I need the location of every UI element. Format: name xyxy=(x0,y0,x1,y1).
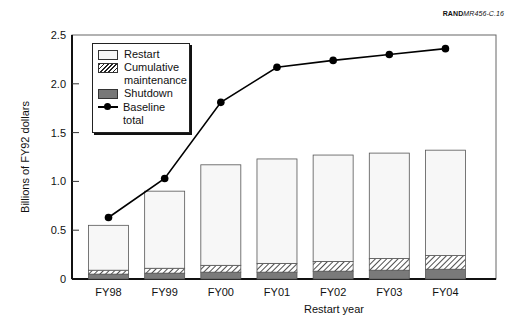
bar-segment xyxy=(89,270,129,274)
data-point xyxy=(105,214,113,222)
legend-item-shutdown: Shutdown xyxy=(98,87,173,100)
bar-segment xyxy=(313,155,353,261)
bar-fy03 xyxy=(369,153,409,279)
line-marker-icon xyxy=(98,101,118,113)
bar-segment xyxy=(145,191,185,268)
bar-fy98 xyxy=(89,225,129,279)
x-tick-label: FY01 xyxy=(264,286,290,298)
y-tick-label: 2.5 xyxy=(51,29,66,41)
bar-segment xyxy=(257,263,297,272)
bar-segment xyxy=(257,272,297,279)
data-point xyxy=(329,57,337,65)
x-tick-label: FY98 xyxy=(95,286,121,298)
chart: 00.51.01.52.02.5Billions of FY92 dollars… xyxy=(0,0,517,332)
bar-segment xyxy=(145,268,185,273)
legend: Restart Cumulativemaintenance Shutdown B… xyxy=(92,43,190,133)
bar-segment xyxy=(201,165,241,266)
bar-segment xyxy=(369,259,409,271)
x-tick-label: FY99 xyxy=(152,286,178,298)
bar-fy01 xyxy=(257,159,297,279)
y-tick-label: 1.0 xyxy=(51,175,66,187)
x-axis-label: Restart year xyxy=(304,303,364,315)
restart-swatch-icon xyxy=(98,50,118,60)
y-tick-label: 0 xyxy=(60,273,66,285)
legend-label: Shutdown xyxy=(124,87,173,100)
legend-item-restart: Restart xyxy=(98,48,159,61)
y-tick-label: 2.0 xyxy=(51,78,66,90)
data-point xyxy=(273,63,281,71)
y-tick-label: 0.5 xyxy=(51,224,66,236)
legend-label: Cumulativemaintenance xyxy=(124,61,187,87)
legend-label: Restart xyxy=(124,48,159,61)
y-axis-label: Billions of FY92 dollars xyxy=(19,101,31,213)
shutdown-swatch-icon xyxy=(98,89,118,99)
bar-segment xyxy=(425,269,465,279)
x-tick-label: FY00 xyxy=(208,286,234,298)
bar-segment xyxy=(313,271,353,279)
bar-segment xyxy=(369,270,409,279)
bar-fy99 xyxy=(145,191,185,279)
bar-fy04 xyxy=(425,150,465,279)
bar-segment xyxy=(425,256,465,270)
legend-item-baseline: Baselinetotal xyxy=(98,101,165,127)
bar-segment xyxy=(257,159,297,263)
bar-segment xyxy=(313,261,353,271)
x-tick-label: FY04 xyxy=(432,286,458,298)
bar-segment xyxy=(89,274,129,279)
legend-label: Baselinetotal xyxy=(123,101,165,127)
bar-segment xyxy=(89,225,129,270)
data-point xyxy=(161,175,169,183)
bar-segment xyxy=(369,153,409,258)
legend-item-maintenance: Cumulativemaintenance xyxy=(98,61,187,87)
data-point xyxy=(385,51,393,59)
bar-segment xyxy=(201,272,241,279)
x-tick-label: FY02 xyxy=(320,286,346,298)
bar-fy00 xyxy=(201,165,241,279)
hatch-swatch-icon xyxy=(98,63,118,73)
data-point xyxy=(217,99,225,107)
data-point xyxy=(442,45,450,53)
bar-segment xyxy=(201,265,241,272)
y-tick-label: 1.5 xyxy=(51,127,66,139)
bar-fy02 xyxy=(313,155,353,279)
bar-segment xyxy=(425,150,465,255)
x-tick-label: FY03 xyxy=(376,286,402,298)
bar-segment xyxy=(145,273,185,279)
